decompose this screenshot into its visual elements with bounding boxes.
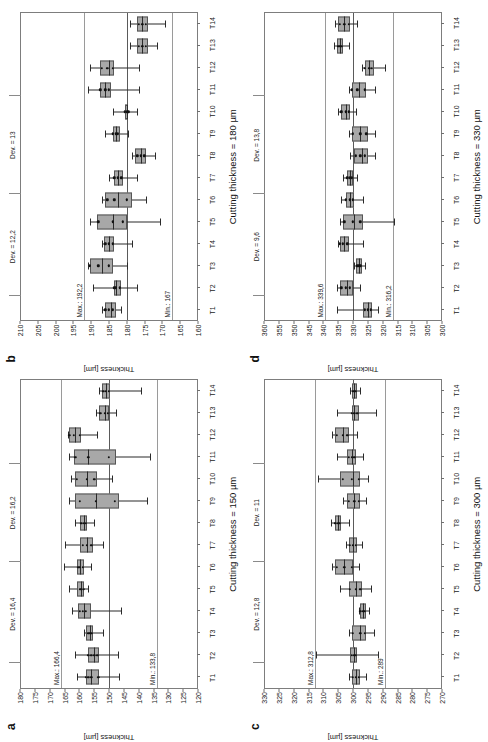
max-limit-label: Max.: 192,2 xyxy=(76,284,84,318)
whisker-cap-lower xyxy=(357,432,358,439)
x-tick-label-T2: T2 xyxy=(209,284,216,292)
x-tick-label-T3: T3 xyxy=(209,630,216,638)
deviation-upper-label: Dev. = 12,8 xyxy=(253,598,260,631)
y-tick-mark xyxy=(162,322,163,325)
y-tick-mark xyxy=(264,689,265,692)
whisker-cap-upper xyxy=(337,306,338,313)
x-tick-label-T3: T3 xyxy=(453,630,460,638)
whisker-cap-lower xyxy=(385,64,386,71)
whisker-cap-upper xyxy=(343,174,344,181)
min-limit-label: Min.: 167 xyxy=(164,291,172,318)
whisker-cap-lower xyxy=(375,86,376,93)
y-tick-mark xyxy=(126,322,127,325)
x-tick-label-T8: T8 xyxy=(453,519,460,527)
whisker-cap-lower xyxy=(165,20,166,27)
whisker-cap-lower xyxy=(141,388,142,395)
y-tick-mark xyxy=(353,689,354,692)
x-tick-label-T4: T4 xyxy=(453,608,460,616)
min-limit-line xyxy=(157,381,158,689)
y-tick-mark xyxy=(338,322,339,325)
x-tick-label-T6: T6 xyxy=(209,196,216,204)
x-tick-label-T14: T14 xyxy=(453,385,460,397)
whisker-cap-upper xyxy=(349,130,350,137)
whisker-cap-upper xyxy=(346,542,347,549)
x-tick-label-T11: T11 xyxy=(209,451,216,463)
whisker-cap-lower xyxy=(137,174,138,181)
whisker-cap-lower xyxy=(103,630,104,637)
y-axis-title: Thickness [µm] xyxy=(84,733,135,742)
x-tick-label-T2: T2 xyxy=(209,652,216,660)
deviation-divider xyxy=(9,662,21,663)
median-line xyxy=(102,258,103,273)
y-tick-mark xyxy=(55,322,56,325)
whisker-cap-upper xyxy=(105,130,106,137)
max-limit-line xyxy=(84,13,85,321)
x-tick-label-T8: T8 xyxy=(209,519,216,527)
median-line xyxy=(353,472,354,487)
y-tick-label: 355 xyxy=(275,325,282,337)
whisker-cap-upper xyxy=(340,586,341,593)
whisker-cap-lower xyxy=(97,432,98,439)
x-tick-label-T13: T13 xyxy=(453,407,460,419)
whisker-cap-upper xyxy=(334,42,335,49)
whisker-cap-lower xyxy=(357,174,358,181)
y-tick-mark xyxy=(198,322,199,325)
min-limit-line xyxy=(393,13,394,321)
whisker-cap-lower xyxy=(157,42,158,49)
y-tick-label: 180 xyxy=(17,692,24,704)
min-limit-label: Min.: 289 xyxy=(377,658,385,685)
whisker-cap-upper xyxy=(337,284,338,291)
whisker-cap-lower xyxy=(121,608,122,615)
y-tick-mark xyxy=(382,322,383,325)
y-tick-label: 310 xyxy=(409,325,416,337)
y-tick-mark xyxy=(442,322,443,325)
y-tick-label: 170 xyxy=(159,325,166,337)
min-limit-label: Min.: 133,8 xyxy=(149,653,157,685)
box xyxy=(75,494,119,509)
y-tick-mark xyxy=(308,322,309,325)
x-tick-label-T10: T10 xyxy=(209,105,216,117)
y-tick-label: 360 xyxy=(261,325,268,337)
whisker-cap-upper xyxy=(132,152,133,159)
y-tick-mark xyxy=(323,689,324,692)
x-tick-label-T7: T7 xyxy=(209,174,216,182)
panel-letter-d: d xyxy=(248,355,262,362)
whisker-cap-upper xyxy=(337,454,338,461)
x-tick-label-T12: T12 xyxy=(209,61,216,73)
whisker-cap-upper xyxy=(69,498,70,505)
median-line xyxy=(109,60,110,75)
max-limit-label: Max.: 339,6 xyxy=(317,284,325,318)
y-tick-mark xyxy=(91,322,92,325)
deviation-divider xyxy=(9,193,21,194)
x-tick-label-T9: T9 xyxy=(209,130,216,138)
whisker xyxy=(316,655,378,656)
whisker-cap-lower xyxy=(365,262,366,269)
y-axis: 210205200195190185180175170165160Thickne… xyxy=(20,322,198,368)
max-limit-line xyxy=(61,381,62,689)
whisker-cap-upper xyxy=(130,20,131,27)
x-axis-title: Cutting thickness = 180 µm xyxy=(227,12,238,322)
whisker-cap-lower xyxy=(137,284,138,291)
y-tick-mark xyxy=(64,689,65,692)
y-tick-mark xyxy=(278,322,279,325)
whisker-cap-upper xyxy=(102,306,103,313)
whisker-cap-upper xyxy=(335,20,336,27)
whisker xyxy=(130,23,165,24)
x-tick-label-T11: T11 xyxy=(209,84,216,96)
deviation-divider xyxy=(9,95,21,96)
y-tick-mark xyxy=(367,689,368,692)
x-tick-label-T2: T2 xyxy=(453,652,460,660)
x-tick-label-T6: T6 xyxy=(209,563,216,571)
y-tick-label: 145 xyxy=(120,692,127,704)
whisker-cap-lower xyxy=(360,388,361,395)
whisker-cap-upper xyxy=(90,64,91,71)
x-tick-label-T9: T9 xyxy=(209,497,216,505)
whisker-cap-lower xyxy=(363,240,364,247)
y-tick-mark xyxy=(264,322,265,325)
y-tick-label: 280 xyxy=(409,692,416,704)
x-tick-label-T6: T6 xyxy=(453,196,460,204)
y-tick-label: 130 xyxy=(165,692,172,704)
whisker-cap-upper xyxy=(65,542,66,549)
y-tick-mark xyxy=(138,689,139,692)
